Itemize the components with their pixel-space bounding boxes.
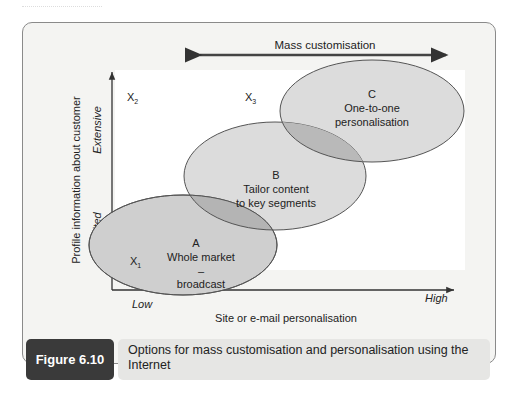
y-axis-title: Profile information about customer bbox=[70, 96, 82, 264]
ellipse-a-line3: broadcast bbox=[177, 278, 225, 290]
ellipse-b-line2: to key segments bbox=[236, 197, 317, 209]
point-x3: X3 bbox=[245, 91, 256, 105]
ellipse-c-line1: One-to-one bbox=[344, 102, 400, 114]
ellipse-c-line2: personalisation bbox=[335, 116, 409, 128]
point-x2: X2 bbox=[127, 91, 138, 105]
figure-caption: Options for mass customisation and perso… bbox=[118, 339, 490, 380]
ellipse-a-line1: Whole market bbox=[167, 251, 235, 263]
ellipse-c-letter: C bbox=[368, 88, 376, 100]
ellipse-a-letter: A bbox=[192, 237, 200, 249]
x-low-label: Low bbox=[132, 298, 153, 310]
ellipse-a-line2: – bbox=[198, 265, 205, 277]
ellipse-b-letter: B bbox=[272, 169, 279, 181]
y-high-label: Extensive bbox=[91, 106, 103, 154]
x-axis-title: Site or e-mail personalisation bbox=[215, 312, 357, 324]
ellipse-b-line1: Tailor content bbox=[243, 183, 308, 195]
mass-customisation-label: Mass customisation bbox=[275, 39, 376, 51]
figure-number: Figure 6.10 bbox=[26, 339, 114, 380]
x-high-label: High bbox=[425, 292, 448, 304]
